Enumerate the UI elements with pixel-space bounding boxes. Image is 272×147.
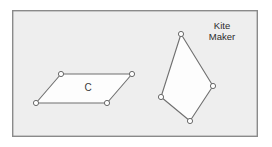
kite-vertex-handle-1[interactable] <box>210 83 215 88</box>
parallelogram-vertex-handle-0[interactable] <box>58 71 63 76</box>
parallelogram-vertex-handle-3[interactable] <box>33 100 38 105</box>
kite-vertex-handle-0[interactable] <box>178 31 183 36</box>
figure-canvas: C KiteMaker <box>0 0 272 147</box>
kite-vertex-handle-2[interactable] <box>187 118 192 123</box>
parallelogram-vertex-handle-1[interactable] <box>129 71 134 76</box>
parallelogram-vertex-handle-2[interactable] <box>104 100 109 105</box>
parallelogram-label: C <box>84 82 91 93</box>
kite-maker-caption-line-1: Maker <box>209 31 235 42</box>
geometry-figure: C KiteMaker <box>0 0 272 147</box>
labels-layer: C <box>84 82 91 93</box>
kite-vertex-handle-3[interactable] <box>158 94 163 99</box>
kite-maker-caption-line-0: Kite <box>214 20 230 31</box>
